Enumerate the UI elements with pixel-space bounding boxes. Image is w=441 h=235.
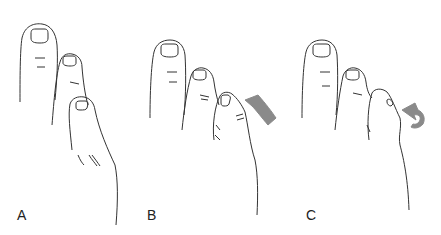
panel-c: C — [290, 0, 441, 235]
curved-rotation-arrow-icon — [402, 103, 424, 128]
rotation-arrow-icon — [245, 95, 276, 125]
panel-a: A — [0, 0, 145, 235]
panel-b: B — [140, 0, 290, 235]
toe-illustration-c — [290, 0, 441, 235]
panel-label-b: B — [147, 207, 156, 223]
toe-illustration-b — [140, 0, 290, 235]
toe-illustration-a — [0, 0, 145, 235]
panel-label-c: C — [306, 207, 316, 223]
panel-label-a: A — [17, 207, 26, 223]
